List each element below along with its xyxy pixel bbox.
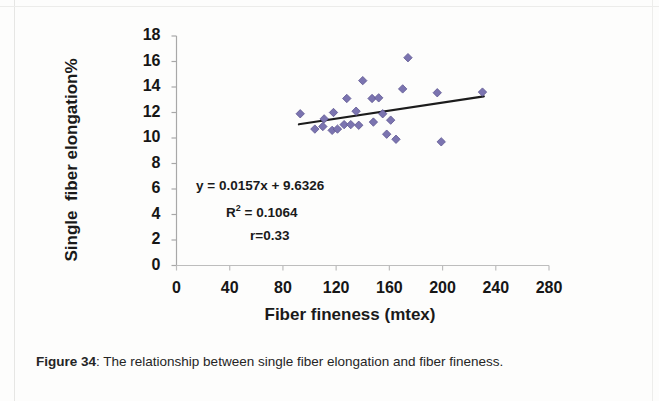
data-point [404, 53, 412, 61]
data-point [343, 94, 351, 102]
figure-caption: Figure 34: The relationship between sing… [36, 352, 616, 371]
r-squared-annotation: R2 = 0.1064 [226, 203, 297, 220]
x-axis-tick-label: 200 [420, 279, 466, 297]
x-axis-tick-label: 280 [526, 279, 572, 297]
y-axis-tick-label: 0 [133, 256, 161, 274]
data-point [296, 110, 304, 118]
data-point [386, 116, 394, 124]
y-axis-tick-label: 4 [133, 205, 161, 223]
x-axis-tick-label: 80 [260, 279, 306, 297]
x-axis-tick-label: 240 [473, 279, 519, 297]
data-point [329, 108, 337, 116]
x-axis-tick-label: 40 [207, 279, 253, 297]
x-axis-title: Fiber fineness (mtex) [150, 305, 550, 325]
data-point [355, 121, 363, 129]
y-axis-tick-label: 18 [133, 26, 161, 44]
x-axis-tick-label: 120 [313, 279, 359, 297]
data-point [478, 88, 486, 96]
figure-caption-text: The relationship between single fiber el… [100, 354, 504, 369]
x-axis-ticks [177, 266, 550, 271]
figure-page: 024681012141618 04080120160200240280 Sin… [0, 0, 659, 401]
y-axis-tick-label: 16 [133, 52, 161, 70]
data-point [437, 138, 445, 146]
data-point [433, 89, 441, 97]
data-point [311, 125, 319, 133]
x-axis-tick-label: 160 [366, 279, 412, 297]
data-point [369, 118, 377, 126]
y-axis-tick-label: 12 [133, 103, 161, 121]
y-axis-tick-label: 2 [133, 230, 161, 248]
data-point [359, 76, 367, 84]
figure-number: Figure 34 [36, 354, 96, 369]
y-axis-tick-label: 6 [133, 179, 161, 197]
correlation-annotation: r=0.33 [250, 228, 289, 243]
data-point [392, 135, 400, 143]
y-axis-tick-label: 14 [133, 77, 161, 95]
scatter-chart: 024681012141618 04080120160200240280 Sin… [0, 0, 659, 340]
r-squared-prefix: R [226, 205, 236, 220]
x-axis-tick-label: 0 [154, 279, 200, 297]
data-point [398, 85, 406, 93]
data-point [347, 120, 355, 128]
data-point [375, 94, 383, 102]
y-axis-tick-label: 8 [133, 154, 161, 172]
r-squared-value: = 0.1064 [241, 205, 298, 220]
y-axis-title: Single fiber elongation% [62, 30, 82, 290]
chart-axes [177, 36, 550, 266]
trendline-equation: y = 0.0157x + 9.6326 [196, 178, 324, 193]
y-axis-ticks [172, 36, 177, 266]
data-point [382, 130, 390, 138]
y-axis-tick-label: 10 [133, 128, 161, 146]
data-point [319, 122, 327, 130]
